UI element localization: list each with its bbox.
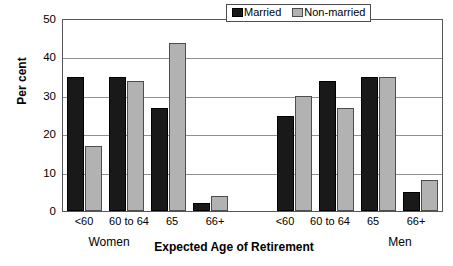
y-tick-30: 30 xyxy=(24,91,56,102)
bar-women-60to64-non-married xyxy=(127,81,144,211)
legend-label-non-married: Non-married xyxy=(304,7,365,18)
dark-swatch-icon xyxy=(232,8,243,17)
y-tick-10: 10 xyxy=(24,168,56,179)
bar-men-under60-married xyxy=(277,116,294,212)
y-tick-0: 0 xyxy=(24,206,56,217)
bar-women-60to64-married xyxy=(109,77,126,211)
plot-area xyxy=(62,19,443,212)
x-tick-men-66plus: 66+ xyxy=(391,215,441,227)
x-axis-title: Expected Age of Retirement xyxy=(134,240,334,254)
bar-women-under60-married xyxy=(67,77,84,211)
y-tick-50: 50 xyxy=(24,14,56,25)
x-tick-men-65: 65 xyxy=(351,215,395,227)
bar-chart: Per cent 50 40 30 20 10 0 <60 60 to 64 6… xyxy=(0,0,453,266)
bar-series-container xyxy=(63,20,442,211)
bar-women-under60-non-married xyxy=(85,146,102,211)
x-tick-women-66plus: 66+ xyxy=(190,215,240,227)
bar-women-66plus-non-married xyxy=(211,196,228,211)
legend-item-non-married: Non-married xyxy=(292,7,365,18)
group-label-men: Men xyxy=(370,235,430,249)
bar-women-65-non-married xyxy=(169,43,186,211)
y-tick-40: 40 xyxy=(24,52,56,63)
bar-women-65-married xyxy=(151,108,168,211)
legend: Married Non-married xyxy=(226,4,371,22)
x-tick-women-65: 65 xyxy=(150,215,194,227)
legend-label-married: Married xyxy=(244,7,281,18)
bar-men-under60-non-married xyxy=(295,96,312,211)
bar-men-66plus-married xyxy=(403,192,420,211)
bar-men-60to64-non-married xyxy=(337,108,354,211)
y-tick-20: 20 xyxy=(24,129,56,140)
bar-men-65-non-married xyxy=(379,77,396,211)
light-swatch-icon xyxy=(292,8,303,17)
bar-men-60to64-married xyxy=(319,81,336,211)
legend-item-married: Married xyxy=(232,7,281,18)
bar-women-66plus-married xyxy=(193,203,210,211)
bar-men-65-married xyxy=(361,77,378,211)
bar-men-66plus-non-married xyxy=(421,180,438,211)
